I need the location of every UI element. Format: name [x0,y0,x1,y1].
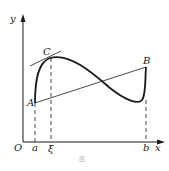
point-label-B: B [142,55,150,66]
point-label-A: A [26,97,34,108]
tick-label-xi: ξ [48,143,54,154]
x-axis-label: x [155,142,161,153]
tick-label-b: b [143,142,149,153]
y-axis-label: y [9,13,16,24]
mean-value-theorem-diagram: y x O a ξ b A C B 图 [0,0,169,171]
y-axis-arrow-icon [21,14,26,22]
tick-label-a: a [32,142,38,153]
origin-label: O [14,142,22,153]
figure-caption: 图 [79,155,85,163]
function-curve [35,57,146,103]
point-label-C: C [43,46,51,57]
y-axis [21,14,26,142]
